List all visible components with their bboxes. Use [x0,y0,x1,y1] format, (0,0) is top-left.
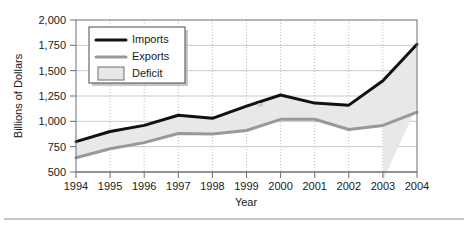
x-tick-label-1999: 1999 [234,180,258,192]
y-tick-label-1500: 1,500 [38,65,66,77]
x-tick-label-2000: 2000 [268,180,292,192]
x-axis-ticks [76,172,417,178]
y-tick-label-750: 750 [48,141,66,153]
legend-label-imports: Imports [132,33,169,45]
x-tick-label-2004: 2004 [405,180,429,192]
y-tick-label-1250: 1,250 [38,90,66,102]
x-tick-label-1994: 1994 [64,180,88,192]
y-tick-label-500: 500 [48,166,66,178]
trade-balance-area-chart: 2,000 1,750 1,500 1,250 1,000 750 500 Bi… [0,0,468,227]
imports-line-artifact [258,103,263,106]
y-tick-label-1750: 1,750 [38,39,66,51]
x-tick-label-2002: 2002 [337,180,361,192]
legend-swatch-deficit [98,67,124,80]
x-axis-title: Year [235,196,258,208]
x-tick-label-2003: 2003 [371,180,395,192]
y-axis-ticks [70,20,76,172]
x-tick-label-1997: 1997 [166,180,190,192]
x-tick-label-1998: 1998 [200,180,224,192]
y-axis-title: Billions of Dollars [12,53,24,138]
y-tick-label-2000: 2,000 [38,14,66,26]
x-tick-label-2001: 2001 [302,180,326,192]
legend-label-deficit: Deficit [132,67,163,79]
legend-label-exports: Exports [132,50,170,62]
x-tick-label-1996: 1996 [132,180,156,192]
x-tick-label-1995: 1995 [98,180,122,192]
chart-figure: 2,000 1,750 1,500 1,250 1,000 750 500 Bi… [0,0,468,227]
chart-legend[interactable]: Imports Exports Deficit [89,27,188,86]
y-tick-label-1000: 1,000 [38,115,66,127]
